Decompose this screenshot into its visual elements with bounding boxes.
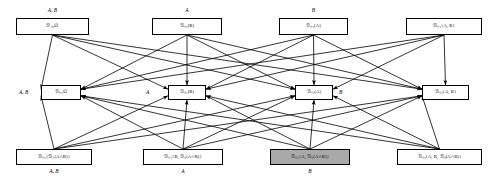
edge-b1-to-m1 [41, 96, 54, 149]
edge-b3-to-m1 [81, 96, 310, 149]
node-tag-t1: A, B [16, 8, 89, 13]
node-tag-m2: A [146, 90, 149, 95]
edge-b4-to-m4 [422, 96, 440, 149]
node-t1[interactable]: ℬₛ₀∅ [16, 18, 89, 35]
edge-b3-to-m3 [310, 100, 314, 149]
node-tag-m3: B [339, 90, 342, 95]
node-label: ℬₛ₁(B) [180, 90, 194, 95]
node-label: ℬₛ₂(A) [307, 90, 322, 95]
edge-group [41, 35, 446, 149]
edge-b2-to-m3 [183, 96, 295, 149]
node-tag-t2: A [152, 8, 222, 13]
node-label: ℬₛ₂(A) [306, 24, 321, 29]
edge-t4-to-m4 [444, 35, 446, 85]
node-t2[interactable]: ℬₛ₁(B) [152, 18, 222, 35]
node-tag-t3: B [279, 8, 348, 13]
edge-t3-to-m3 [314, 35, 315, 85]
node-tag-b3: B [270, 169, 350, 174]
node-label: ℬₛ₁(B) [180, 24, 194, 29]
node-label: ℬₛ₃{A, B} [433, 24, 455, 29]
node-tag-b1: A, B [16, 169, 92, 174]
edge-t4-to-m1 [81, 35, 444, 89]
node-label: ℬₛ₀{ℬₛ(A∩B)} [38, 155, 70, 160]
node-m4[interactable]: ℬₛ₃{A, B} [422, 85, 469, 100]
node-label: ℬₛ₀∅ [46, 24, 58, 29]
node-b4[interactable]: ℬₛ₃{A, B, ℬₛ(A∩B)} [397, 149, 482, 165]
edge-t1-to-m4 [53, 35, 423, 89]
node-label: ℬₛ₂{A, ℬₛ(A∩B)} [291, 155, 329, 160]
node-b2[interactable]: ℬₛ₁{B, ℬₛ(A∩B)} [143, 149, 223, 165]
node-t4[interactable]: ℬₛ₃{A, B} [406, 18, 482, 35]
node-b3[interactable]: ℬₛ₂{A, ℬₛ(A∩B)} [270, 149, 350, 165]
node-t3[interactable]: ℬₛ₂(A) [279, 18, 348, 35]
node-tag-m1: A, B [19, 90, 28, 95]
node-label: ℬₛ₁{B, ℬₛ(A∩B)} [164, 155, 202, 160]
node-m2[interactable]: ℬₛ₁(B) [168, 85, 206, 100]
node-label: ℬₛ₃{A, B, ℬₛ(A∩B)} [418, 155, 462, 160]
edge-t1-to-m1 [41, 35, 53, 89]
edge-b2-to-m2 [183, 100, 187, 149]
node-tag-b2: A [143, 169, 223, 174]
diagram-canvas: ℬₛ₀∅ℬₛ₁(B)ℬₛ₂(A)ℬₛ₃{A, B}ℬₛ₀∅ℬₛ₁(B)ℬₛ₂(A… [0, 0, 496, 185]
node-m3[interactable]: ℬₛ₂(A) [295, 85, 333, 100]
node-m1[interactable]: ℬₛ₀∅ [41, 85, 81, 100]
node-label: ℬₛ₀∅ [55, 90, 67, 95]
node-label: ℬₛ₃{A, B} [435, 90, 457, 95]
node-b1[interactable]: ℬₛ₀{ℬₛ(A∩B)} [16, 149, 92, 165]
edge-t1-to-m3 [53, 35, 296, 89]
edge-b2-to-m1 [81, 96, 183, 149]
